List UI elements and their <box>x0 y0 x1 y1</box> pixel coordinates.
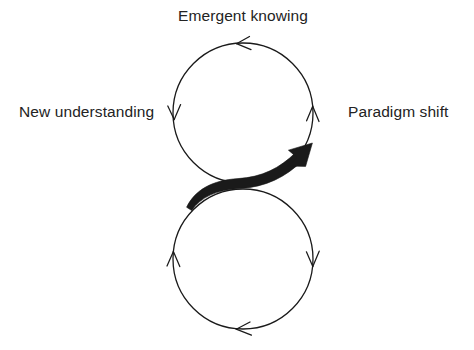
bold-arrow-shaft <box>187 153 303 211</box>
label-paradigm-shift: Paradigm shift <box>348 104 448 120</box>
label-emergent-knowing: Emergent knowing <box>178 8 308 24</box>
bold-arrowhead <box>288 143 313 166</box>
label-new-understanding: New understanding <box>19 104 154 120</box>
cycle-diagram-graphic <box>0 0 474 350</box>
diagram-canvas: Emergent knowing New understanding Parad… <box>0 0 474 350</box>
upper-circle-left-arrowhead <box>168 105 181 120</box>
lower-cycle-circle <box>173 189 313 329</box>
